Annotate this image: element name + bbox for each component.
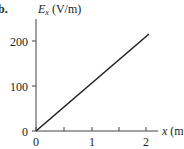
data-line-ex bbox=[36, 34, 149, 131]
plot-area bbox=[0, 0, 184, 149]
